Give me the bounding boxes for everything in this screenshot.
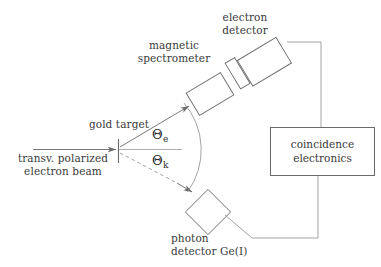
photon-detector-label-line1: photon bbox=[171, 232, 281, 245]
electron-detector-label-line2: detector bbox=[209, 24, 281, 37]
gold-target-label: gold target bbox=[76, 118, 162, 131]
gold-target-label-text: gold target bbox=[89, 118, 149, 130]
photon-detector-box bbox=[185, 189, 230, 234]
coincidence-electronics-label: coincidence electronics bbox=[270, 138, 375, 165]
photon-detector-label: photon detector Ge(I) bbox=[171, 232, 281, 257]
collimator-box bbox=[225, 58, 250, 89]
theta-k-label: Θk bbox=[152, 154, 168, 169]
electron-detector-box bbox=[237, 37, 291, 86]
electron-detector-signal-cable bbox=[287, 42, 321, 127]
magnetic-spectrometer-label-line1: magnetic bbox=[132, 39, 216, 52]
electron-detector-label: electron detector bbox=[209, 11, 281, 36]
magnetic-spectrometer-box bbox=[186, 73, 234, 116]
beam-label-line1: transv. polarized bbox=[4, 152, 122, 165]
beam-label-line2: electron beam bbox=[4, 165, 122, 178]
theta-e-label: Θe bbox=[152, 128, 168, 143]
magnetic-spectrometer-label: magnetic spectrometer bbox=[132, 39, 216, 64]
beam-label: transv. polarized electron beam bbox=[4, 152, 122, 177]
experimental-setup-diagram: gold target transv. polarized electron b… bbox=[0, 0, 381, 267]
theta-e-symbol: Θ bbox=[152, 127, 163, 142]
photon-trajectory-dashed bbox=[120, 153, 177, 183]
magnetic-spectrometer-label-line2: spectrometer bbox=[132, 52, 216, 65]
theta-e-subscript: e bbox=[163, 134, 168, 144]
theta-k-subscript: k bbox=[163, 160, 168, 170]
coincidence-electronics-line2: electronics bbox=[270, 152, 375, 166]
photon-detector-label-line2: detector Ge(I) bbox=[171, 245, 281, 258]
electron-detector-label-line1: electron bbox=[209, 11, 281, 24]
photon-detector-signal-cable bbox=[225, 176, 318, 238]
photon-trajectory-arrow bbox=[177, 183, 192, 192]
theta-k-symbol: Θ bbox=[152, 153, 163, 168]
coincidence-electronics-line1: coincidence bbox=[270, 138, 375, 152]
angle-arc bbox=[184, 103, 201, 192]
